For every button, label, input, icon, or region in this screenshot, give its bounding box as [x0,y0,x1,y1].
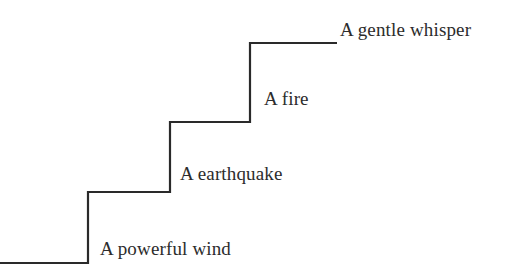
step-label-fire: A fire [264,89,309,108]
step-label-gentle-whisper: A gentle whisper [340,20,471,39]
step-label-powerful-wind: A powerful wind [100,239,231,258]
staircase-figure: A powerful wind A earthquake A fire A ge… [0,0,508,267]
staircase-line-graphic [0,0,508,267]
step-label-earthquake: A earthquake [180,164,283,183]
staircase-polyline [0,43,337,263]
